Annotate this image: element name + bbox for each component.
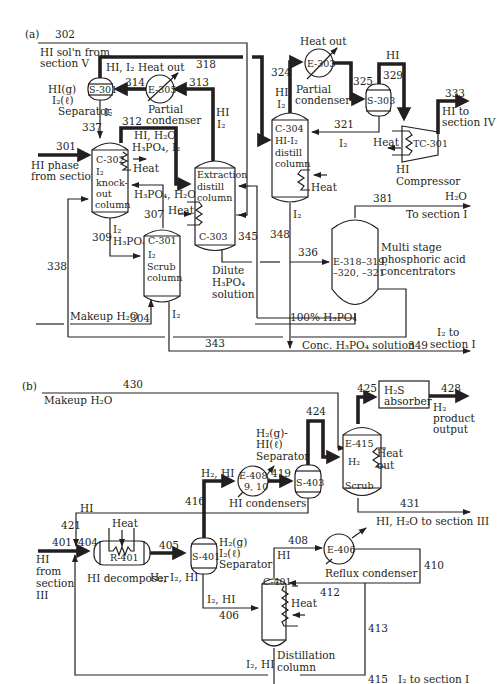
e-406-heat-arrow-icon bbox=[352, 528, 366, 538]
stream-318-label: 318 bbox=[196, 58, 216, 70]
stream-405-label: 405 bbox=[159, 539, 179, 551]
c-302-desc2: knock- bbox=[96, 177, 128, 188]
i2-hi-406-label: I₂, HI bbox=[207, 593, 235, 605]
c-304-desc1: HI-I₂ bbox=[275, 135, 298, 146]
e-303-heat: Heat out bbox=[300, 35, 347, 47]
stream-345-label: 345 bbox=[238, 230, 258, 242]
stream-425-label: 425 bbox=[357, 382, 377, 394]
c-301-desc2: Scrub bbox=[147, 261, 176, 272]
stream-381-label: 381 bbox=[373, 192, 393, 204]
stream-410-label: 410 bbox=[424, 559, 444, 571]
c-401-heat: Heat bbox=[291, 597, 318, 609]
hi-from-1: HI bbox=[36, 553, 49, 565]
i2-309-label: I₂ bbox=[113, 223, 121, 235]
dilute-line-a bbox=[222, 250, 252, 262]
e-318-id1: E-318–319, bbox=[333, 256, 387, 267]
mix-312-label-1: HI, H₂O, bbox=[134, 129, 179, 141]
e-415-heat1: Heat bbox=[377, 447, 404, 459]
panel-a: (a) 302 HI sol'n from section V 318 HI, … bbox=[25, 28, 496, 351]
stream-309-label: 309 bbox=[92, 231, 112, 243]
i2-to-section-label: I₂ to section I bbox=[398, 673, 469, 684]
s-403-desc3: Separator bbox=[256, 450, 310, 462]
i2-e305-label: I₂ bbox=[217, 118, 225, 130]
i2-324-label: I₂ bbox=[277, 98, 285, 110]
stream-313-line bbox=[176, 89, 213, 163]
e-303-desc2: condenser bbox=[295, 94, 351, 106]
tc-301-heat: Heat bbox=[373, 136, 400, 148]
stream-416-label: 416 bbox=[185, 495, 205, 507]
e-406-id: E-406 bbox=[327, 544, 355, 555]
hi-h2o-to-label: HI, H₂O to section III bbox=[376, 515, 489, 527]
c-302-desc4: column bbox=[95, 199, 130, 210]
pct100-label: 100% H₃PO₄ bbox=[290, 311, 357, 323]
stream-304-label: 304 bbox=[130, 312, 150, 324]
hi-to-label-2: section IV bbox=[442, 116, 496, 128]
tc-301-id: TC-301 bbox=[413, 138, 448, 149]
h2o-381-label: H₂O bbox=[445, 190, 467, 202]
stream-413-label: 413 bbox=[368, 622, 388, 634]
stream-312-label: 312 bbox=[122, 115, 142, 127]
stream-333-label: 333 bbox=[445, 87, 465, 99]
i2-321-label: I₂ bbox=[339, 137, 347, 149]
h2-product-3: output bbox=[433, 423, 469, 435]
e-318-desc2: phosphoric acid bbox=[381, 253, 466, 265]
tc-301-desc2: Compressor bbox=[396, 175, 461, 187]
hi-i2-top-label: HI, I₂ bbox=[106, 61, 134, 73]
stream-313-label: 313 bbox=[189, 76, 209, 88]
stream-424-label: 424 bbox=[306, 405, 326, 417]
e-415-desc2: Scrub bbox=[345, 480, 374, 491]
stream-321-label: 321 bbox=[334, 118, 354, 130]
i2-s301-label: I₂ bbox=[104, 106, 112, 118]
c-304-id: C-304 bbox=[275, 123, 304, 134]
e-318-desc1: Multi stage bbox=[381, 241, 442, 253]
dilute-label-3: solution bbox=[212, 288, 255, 300]
i2-348-label: I₂ bbox=[293, 208, 301, 220]
hi-324-label: HI bbox=[275, 86, 288, 98]
c-303-desc3: column bbox=[197, 192, 232, 203]
hi-soln-label-2: section V bbox=[40, 57, 89, 69]
stream-325-label: 325 bbox=[353, 75, 373, 87]
stream-329-label: 329 bbox=[383, 69, 403, 81]
s-301-id: S-301 bbox=[89, 84, 117, 95]
stream-424-line bbox=[308, 421, 337, 468]
stream-324-label: 324 bbox=[271, 66, 291, 78]
c-301-id: C-301 bbox=[148, 235, 177, 246]
stream-406-label: 406 bbox=[219, 609, 239, 621]
c-302-desc3: out bbox=[96, 188, 112, 199]
stream-302-label: 302 bbox=[55, 28, 75, 40]
c-304-heat: Heat bbox=[311, 181, 338, 193]
h3po4-h2o-label: H₃PO₄, H₂O bbox=[134, 188, 196, 200]
hi-421-label: HI bbox=[80, 502, 93, 514]
h2-i2-hi-label: H₂, I₂, HI bbox=[150, 571, 198, 583]
e-415-heat2: out bbox=[377, 459, 395, 471]
c-304-desc3: column bbox=[275, 158, 310, 169]
stream-337-label: 337 bbox=[82, 121, 102, 133]
e-415-desc1: H₂ bbox=[348, 456, 360, 467]
hi-from-3: section bbox=[36, 577, 74, 589]
s-403-id: S-403 bbox=[296, 477, 324, 488]
c-304-desc2: distill bbox=[275, 147, 302, 158]
c-401-desc1: Distillation bbox=[277, 649, 336, 661]
stream-419-label: 419 bbox=[271, 467, 291, 479]
s-401-desc3: Separator bbox=[219, 558, 273, 570]
stream-425-line bbox=[358, 397, 374, 424]
c-401-desc2: column bbox=[277, 661, 316, 673]
stream-336-label: 336 bbox=[298, 246, 318, 258]
hi-e305-label: HI bbox=[216, 106, 229, 118]
c-303-heat: Heat bbox=[168, 204, 195, 216]
stream-408-label: 408 bbox=[288, 534, 308, 546]
e-305-desc2: condenser bbox=[146, 114, 202, 126]
stream-412-label: 412 bbox=[320, 586, 340, 598]
dilute-label-1: Dilute bbox=[212, 264, 244, 276]
c-302-heat: Heat bbox=[133, 162, 160, 174]
stream-349-label: 349 bbox=[408, 339, 428, 351]
makeup-h2o-b-label: Makeup H₂O bbox=[44, 394, 113, 406]
c-401-id: C-401 bbox=[263, 576, 292, 587]
i2-to-label-1: I₂ to bbox=[437, 326, 459, 338]
panel-b: (b) 430 Makeup H₂O E-415 H₂ Scrub Heat o… bbox=[22, 378, 489, 684]
e-406-desc: Reflux condenser bbox=[325, 567, 418, 579]
stream-428-label: 428 bbox=[441, 382, 461, 394]
panel-a-label: (a) bbox=[25, 28, 39, 40]
e-408-desc: HI condensers bbox=[229, 497, 306, 509]
e-408-id1: E-408, bbox=[239, 470, 270, 481]
